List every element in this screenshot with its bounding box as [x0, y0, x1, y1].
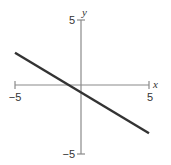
- x-tick-label-5: 5: [147, 91, 153, 103]
- y-tick-label-neg5: −5: [62, 148, 75, 160]
- x-axis-label: x: [152, 78, 158, 90]
- x-tick-label-neg5: −5: [9, 91, 22, 103]
- line-chart: −5 5 5 −5 x y: [0, 0, 171, 165]
- data-line: [15, 53, 149, 133]
- y-axis-label: y: [81, 6, 87, 18]
- y-tick-label-5: 5: [69, 14, 75, 26]
